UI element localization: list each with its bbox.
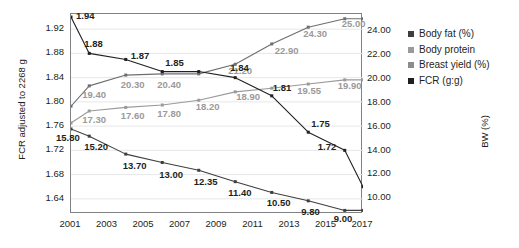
legend-swatch-icon	[408, 31, 414, 37]
legend-label: FCR (g:g)	[419, 75, 463, 87]
data-point-label: 1.94	[76, 10, 95, 21]
data-point-label: 1.88	[84, 38, 103, 49]
legend-item[interactable]: Body protein	[408, 44, 518, 56]
y-axis-left-tick-label: 1.64	[30, 192, 64, 203]
x-axis-tick-label: 2001	[53, 218, 87, 229]
legend-swatch-icon	[408, 78, 414, 84]
legend-item[interactable]: FCR (g:g)	[408, 75, 518, 87]
y-axis-right-tick-label: 10.00	[367, 191, 403, 202]
legend-swatch-icon	[408, 47, 414, 53]
y-axis-right-tick-label: 16.00	[367, 120, 403, 131]
data-point-label: 1.87	[131, 50, 150, 61]
data-point-label: 12.35	[194, 176, 218, 187]
data-point-label: 24.30	[303, 28, 327, 39]
legend: Body fat (%)Body proteinBreast yield (%)…	[408, 28, 518, 90]
data-point-label: 10.50	[267, 197, 291, 208]
x-axis-tick-label: 2013	[272, 218, 306, 229]
y-axis-right-title: BW (%)	[479, 97, 490, 167]
data-point-label: 17.30	[82, 114, 106, 125]
legend-item[interactable]: Body fat (%)	[408, 28, 518, 40]
legend-label: Breast yield (%)	[419, 59, 490, 71]
data-point-label: 15.80	[56, 132, 80, 143]
data-point-label: 20.30	[121, 79, 145, 90]
data-point-label: 11.40	[228, 187, 251, 198]
y-axis-left-tick-label: 1.88	[30, 46, 64, 57]
data-point-label: 1.84	[230, 62, 249, 73]
legend-item[interactable]: Breast yield (%)	[408, 59, 518, 71]
y-axis-left-tick-label: 1.76	[30, 119, 64, 130]
y-axis-left-tick-label: 1.80	[30, 95, 64, 106]
y-axis-right-tick-label: 12.00	[367, 167, 403, 178]
data-point-label: 9.00	[334, 213, 353, 224]
data-point-label: 1.85	[165, 57, 184, 68]
data-point-label: 1.75	[311, 118, 330, 129]
data-point-label: 9.80	[301, 206, 320, 217]
data-point-label: 20.40	[157, 79, 181, 90]
data-point-label: 19.55	[297, 85, 321, 96]
chart-figure: FCR adjusted to 2268 g BW (%) 1.921.881.…	[0, 0, 519, 248]
legend-swatch-icon	[408, 62, 414, 68]
data-point-label: 13.00	[159, 169, 183, 180]
y-axis-right-tick-label: 20.00	[367, 72, 403, 83]
legend-label: Body fat (%)	[419, 28, 474, 40]
y-axis-left-tick-label: 1.92	[30, 22, 64, 33]
data-point-label: 13.70	[123, 160, 147, 171]
data-point-label: 19.40	[82, 89, 106, 100]
legend-label: Body protein	[419, 44, 475, 56]
y-axis-left-tick-label: 1.68	[30, 168, 64, 179]
y-axis-left-title: FCR adjusted to 2268 g	[16, 45, 27, 175]
data-point-label: 17.80	[157, 108, 181, 119]
data-point-label: 18.90	[236, 91, 260, 102]
data-point-label: 1.81	[273, 82, 292, 93]
x-axis-tick-label: 2003	[90, 218, 124, 229]
y-axis-left-tick-label: 1.72	[30, 143, 64, 154]
x-axis-tick-label: 2005	[126, 218, 160, 229]
data-point-label: 25.00	[342, 18, 366, 29]
x-axis-tick-label: 2007	[163, 218, 197, 229]
y-axis-right-tick-label: 14.00	[367, 144, 403, 155]
data-point-label: 19.90	[338, 80, 362, 91]
data-point-label: 18.20	[196, 101, 220, 112]
y-axis-right-tick-label: 18.00	[367, 96, 403, 107]
data-point-label: 22.90	[275, 45, 299, 56]
data-point-label: 1.72	[318, 141, 337, 152]
y-axis-right-tick-label: 22.00	[367, 48, 403, 59]
x-axis-tick-label: 2009	[199, 218, 233, 229]
y-axis-right-tick-label: 24.00	[367, 24, 403, 35]
y-axis-left-tick-label: 1.84	[30, 71, 64, 82]
data-point-label: 17.60	[121, 110, 145, 121]
data-point-label: 15.20	[84, 141, 108, 152]
x-axis-tick-label: 2011	[236, 218, 270, 229]
